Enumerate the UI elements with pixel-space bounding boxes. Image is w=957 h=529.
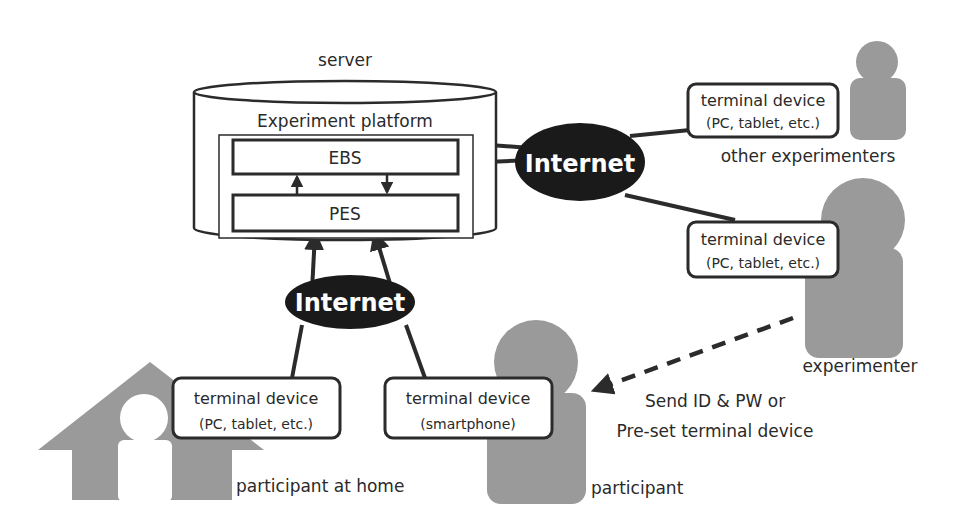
link-internet-bottom-home	[292, 325, 302, 378]
link-internet-bottom-smartphone	[406, 325, 425, 378]
internet-cloud-bottom: Internet	[285, 275, 415, 329]
internet-bottom-label: Internet	[295, 289, 405, 317]
other-experimenters-label: other experimenters	[721, 146, 896, 166]
other-experimenters-figure	[850, 41, 906, 140]
experimenter-label: experimenter	[802, 356, 917, 376]
link-internet-top-device1	[630, 130, 690, 136]
server-label: server	[318, 50, 372, 70]
internet-cloud-top: Internet	[515, 123, 645, 201]
svg-text:terminal device: terminal device	[406, 389, 530, 408]
internet-top-label: Internet	[525, 150, 635, 178]
svg-text:(PC, tablet, etc.): (PC, tablet, etc.)	[199, 416, 313, 432]
svg-text:(smartphone): (smartphone)	[420, 416, 516, 432]
terminal-device-home[interactable]: terminal device (PC, tablet, etc.)	[173, 378, 340, 438]
send-annotation-line1: Send ID & PW or	[645, 391, 785, 411]
terminal-device-other-experimenters[interactable]: terminal device (PC, tablet, etc.)	[688, 84, 838, 137]
participant-label: participant	[591, 478, 684, 498]
pes-label: PES	[329, 204, 361, 224]
send-annotation-line2: Pre-set terminal device	[617, 421, 814, 441]
participant-at-home-label: participant at home	[236, 476, 404, 496]
svg-text:terminal device: terminal device	[194, 389, 318, 408]
platform-label: Experiment platform	[257, 111, 433, 131]
svg-text:(PC, tablet, etc.): (PC, tablet, etc.)	[706, 115, 820, 131]
terminal-device-smartphone[interactable]: terminal device (smartphone)	[385, 378, 552, 438]
svg-text:terminal device: terminal device	[701, 91, 825, 110]
svg-text:(PC, tablet, etc.): (PC, tablet, etc.)	[706, 255, 820, 271]
ebs-label: EBS	[329, 148, 362, 168]
link-internet-top-device2	[625, 195, 735, 220]
terminal-device-experimenter[interactable]: terminal device (PC, tablet, etc.)	[688, 222, 838, 277]
send-credentials-arrow	[595, 318, 793, 390]
svg-text:terminal device: terminal device	[701, 230, 825, 249]
